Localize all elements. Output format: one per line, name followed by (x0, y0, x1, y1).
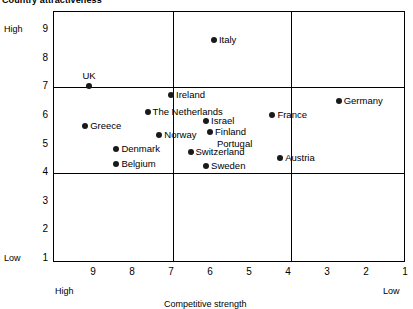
data-point-belgium[interactable] (113, 161, 119, 167)
y-tick-2: 2 (34, 224, 48, 234)
point-label-denmark: Denmark (121, 144, 160, 154)
point-label-switzerland: Switzerland (196, 147, 245, 157)
point-label-germany: Germany (344, 96, 383, 106)
point-label-uk: UK (82, 71, 95, 81)
gridline-horizontal-7 (54, 87, 404, 88)
x-tick-2: 2 (358, 267, 374, 277)
y-tick-6: 6 (34, 110, 48, 120)
y-tick-8: 8 (34, 53, 48, 63)
point-label-finland: Finland (215, 127, 246, 137)
data-point-israel[interactable] (203, 118, 209, 124)
point-label-austria: Austria (285, 153, 315, 163)
point-label-greece: Greece (90, 121, 121, 131)
x-tick-9: 9 (85, 267, 101, 277)
x-axis-low-label: Low (383, 286, 400, 296)
y-axis-high-label: High (4, 24, 23, 34)
x-tick-8: 8 (124, 267, 140, 277)
y-axis-low-label: Low (4, 253, 21, 263)
data-point-finland[interactable] (207, 129, 213, 135)
x-axis-high-label: High (55, 286, 74, 296)
x-tick-4: 4 (280, 267, 296, 277)
point-label-norway: Norway (164, 130, 196, 140)
y-tick-4: 4 (34, 167, 48, 177)
y-tick-7: 7 (34, 81, 48, 91)
gridline-vertical-4 (291, 12, 292, 261)
data-point-austria[interactable] (277, 155, 283, 161)
data-point-germany[interactable] (336, 98, 342, 104)
x-tick-6: 6 (202, 267, 218, 277)
x-tick-1: 1 (397, 267, 413, 277)
point-label-belgium: Belgium (121, 159, 155, 169)
point-label-sweden: Sweden (211, 161, 245, 171)
y-tick-5: 5 (34, 139, 48, 149)
x-tick-3: 3 (319, 267, 335, 277)
y-tick-3: 3 (34, 196, 48, 206)
point-label-italy: Italy (219, 35, 236, 45)
data-point-ireland[interactable] (168, 92, 174, 98)
data-point-switzerland[interactable] (188, 149, 194, 155)
x-tick-7: 7 (163, 267, 179, 277)
chart-title: Country attractiveness (2, 0, 102, 5)
y-tick-9: 9 (34, 24, 48, 34)
point-label-france: France (277, 110, 307, 120)
scatter-chart: Country attractiveness 987654321 9876543… (0, 0, 413, 309)
gridline-horizontal-4 (54, 173, 404, 174)
y-tick-1: 1 (34, 253, 48, 263)
point-label-israel: Israel (211, 116, 234, 126)
x-tick-5: 5 (241, 267, 257, 277)
x-axis-title: Competitive strength (164, 299, 247, 309)
data-point-the-netherlands[interactable] (145, 109, 151, 115)
point-label-ireland: Ireland (176, 90, 205, 100)
